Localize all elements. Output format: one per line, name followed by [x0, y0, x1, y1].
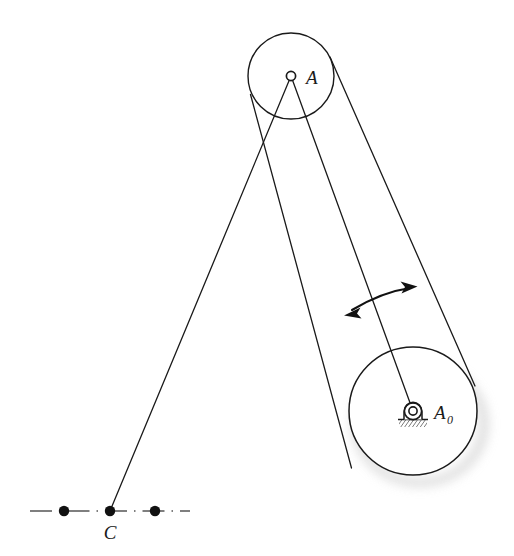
label-point-a0-subscript: 0	[447, 413, 453, 427]
centerline-dot-center	[105, 506, 115, 516]
rotation-arrow-curve	[352, 288, 410, 310]
mechanism-diagram: A A0 C	[0, 0, 514, 556]
rotation-arrow-head-right	[401, 282, 418, 294]
link-a-to-c	[110, 76, 291, 511]
pivot-inner-circle	[409, 407, 417, 415]
centerline-group	[30, 506, 190, 516]
pivot-ground-hatch	[399, 420, 427, 428]
belt-tangent-left	[251, 95, 352, 469]
joint-a-pin	[286, 71, 295, 80]
link-a-to-a0	[291, 76, 413, 411]
centerline-dot-right	[150, 506, 160, 516]
belt-tangent-right	[330, 57, 475, 386]
rotation-arrow	[344, 282, 418, 319]
label-point-a0-base: A	[432, 402, 446, 423]
mechanism-canvas: A A0 C	[0, 0, 514, 556]
centerline-dot-left	[59, 506, 69, 516]
label-point-a: A	[304, 67, 318, 88]
label-point-c: C	[104, 522, 117, 543]
